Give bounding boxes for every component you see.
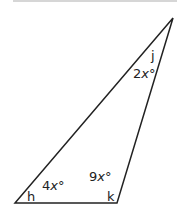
angle-label-j: 2x° bbox=[133, 66, 155, 81]
triangle-diagram: j 2x° h 4x° k 9x° bbox=[0, 0, 177, 217]
angle-label-h: 4x° bbox=[42, 178, 64, 193]
vertex-label-h: h bbox=[27, 189, 35, 204]
vertex-label-j: j bbox=[150, 48, 155, 63]
vertex-label-k: k bbox=[107, 189, 115, 204]
angle-label-k: 9x° bbox=[89, 169, 111, 184]
